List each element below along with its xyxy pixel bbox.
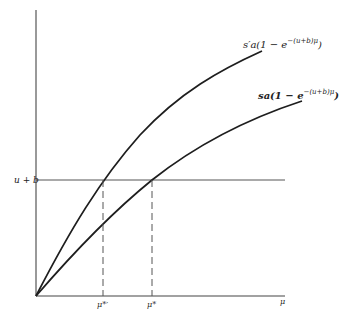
curve-lower	[36, 101, 302, 296]
label-curve-lower: sa(1 − e−(u+b)μ)	[258, 88, 339, 101]
label-mu-star-prime: μ*′	[97, 300, 108, 309]
label-u-plus-b: u + b	[14, 175, 39, 185]
label-mu-star: μ*	[147, 300, 156, 309]
label-curve-upper: s′a(1 − e−(u+b)μ)	[243, 37, 322, 50]
diagram-canvas: u + b s′a(1 − e−(u+b)μ) sa(1 − e−(u+b)μ)…	[0, 0, 339, 319]
label-x-axis-mu: μ	[280, 297, 285, 306]
